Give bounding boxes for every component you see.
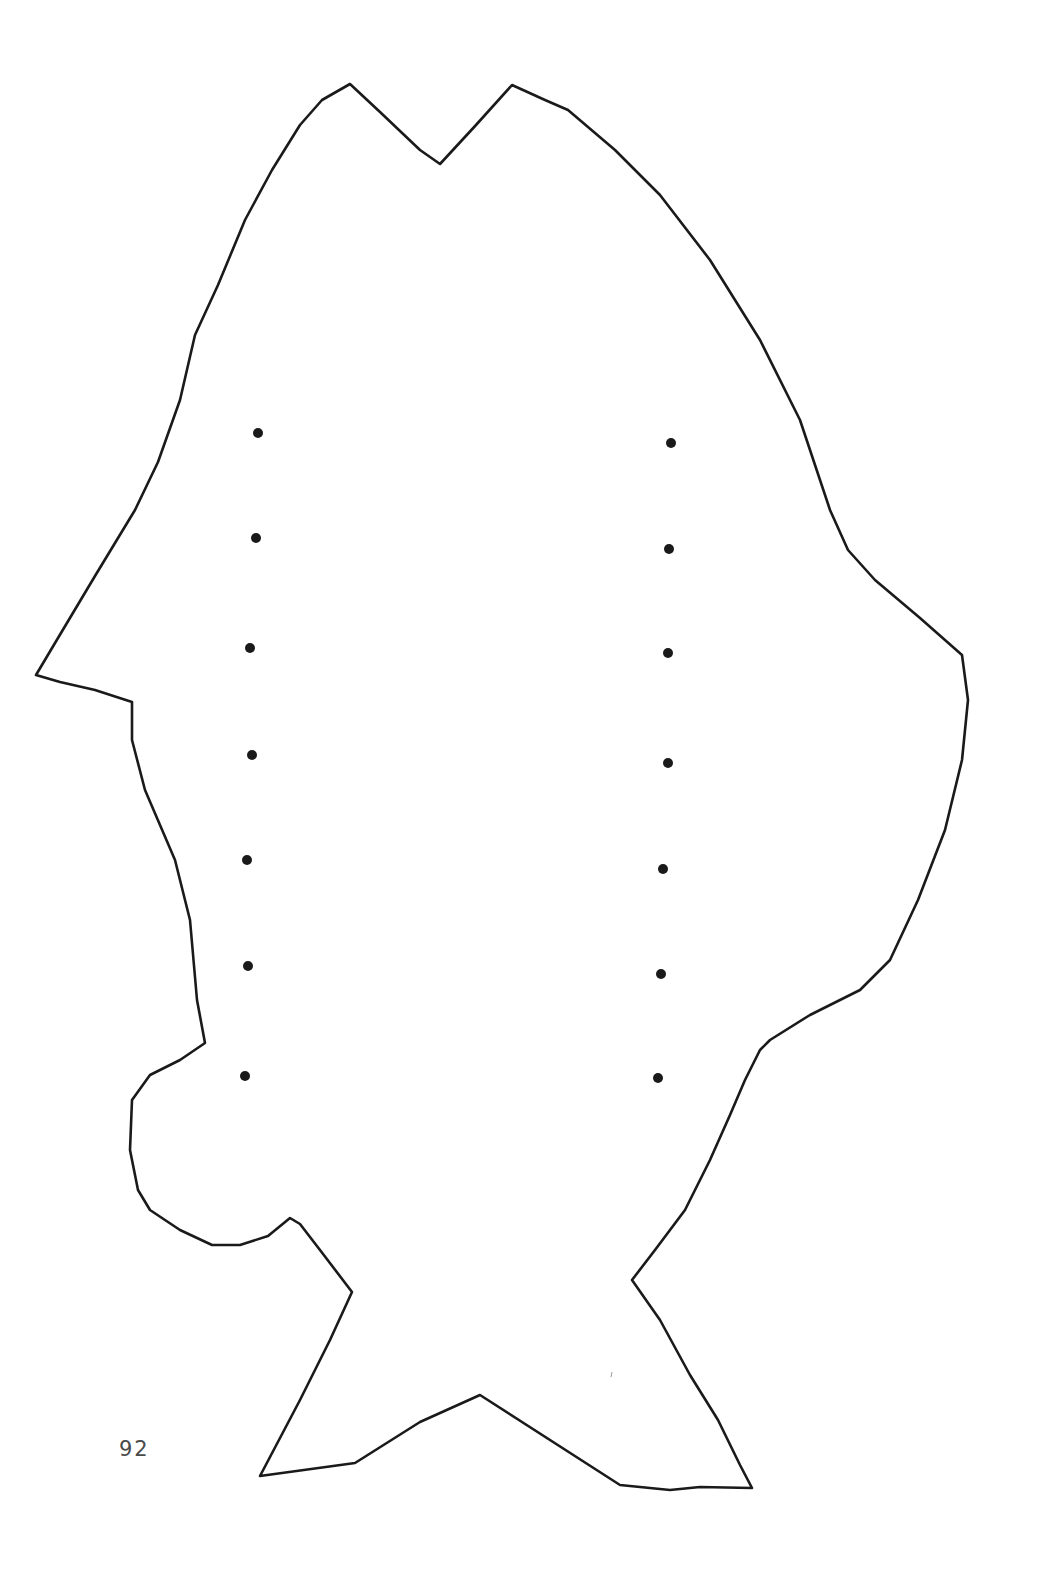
punch-dot	[663, 648, 673, 658]
punch-dot	[247, 750, 257, 760]
left-dot-column	[240, 428, 263, 1081]
punch-dot	[656, 969, 666, 979]
fish-outline-drawing	[0, 0, 1041, 1584]
punch-dot	[653, 1073, 663, 1083]
punch-dot	[243, 961, 253, 971]
punch-dot	[664, 544, 674, 554]
punch-dot	[658, 864, 668, 874]
stray-pencil-mark	[611, 1372, 612, 1377]
punch-dot	[240, 1071, 250, 1081]
right-dot-column	[653, 438, 676, 1083]
coloring-page: 92	[0, 0, 1041, 1584]
punch-dot	[666, 438, 676, 448]
punch-dot	[663, 758, 673, 768]
page-number: 92	[119, 1437, 150, 1461]
fish-outline	[36, 84, 968, 1490]
punch-dot	[251, 533, 261, 543]
punch-dot	[253, 428, 263, 438]
punch-dot	[242, 855, 252, 865]
punch-dot	[245, 643, 255, 653]
